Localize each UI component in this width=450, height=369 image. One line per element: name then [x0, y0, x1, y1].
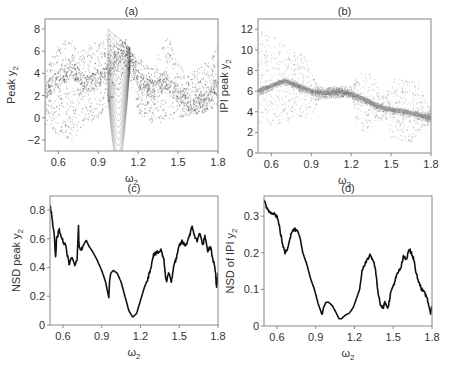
- axes-frame: [45, 19, 218, 151]
- x-tick-label: 0.6: [55, 330, 70, 342]
- x-tick-label: 1.8: [423, 158, 438, 170]
- x-tick-label: 0.9: [304, 158, 319, 170]
- y-tick-label: 2: [34, 90, 40, 102]
- y-tick-label: 0: [253, 320, 259, 332]
- y-tick-label: 6: [34, 45, 40, 57]
- x-tick-label: 0.9: [94, 330, 109, 342]
- x-tick-label: 1.5: [172, 330, 187, 342]
- panel-b-ipi-peak-y2: 0.60.91.21.51.8024681012(b)ω2IPI peak y2: [218, 5, 439, 189]
- y-tick-label: 2: [247, 126, 253, 138]
- y-tick-label: 4: [247, 106, 253, 118]
- y-tick-label: 0.2: [30, 290, 45, 302]
- y-axis-label: NSD of IPI y2: [224, 228, 239, 294]
- y-tick-label: 0.8: [30, 204, 45, 216]
- y-tick-label: 0: [34, 112, 40, 124]
- plot-area: [264, 200, 432, 319]
- x-tick-label: 1.5: [386, 331, 401, 343]
- y-axis-label: NSD peak y2: [10, 228, 25, 292]
- x-tick-label: 1.8: [210, 156, 225, 168]
- x-tick-label: 1.2: [133, 330, 148, 342]
- x-tick-label: 1.2: [344, 158, 359, 170]
- plot-area: [45, 29, 219, 165]
- panel-title: (b): [338, 5, 351, 17]
- axes-frame: [50, 196, 218, 325]
- y-tick-label: 0: [39, 319, 45, 331]
- y-tick-label: 12: [241, 23, 253, 35]
- y-tick-label: 8: [34, 23, 40, 35]
- panel-title: (a): [125, 5, 138, 17]
- axes-frame: [264, 196, 432, 326]
- y-tick-label: 0: [247, 147, 253, 159]
- x-tick-label: 1.8: [424, 331, 439, 343]
- panel-d-nsd-ipi-y2: 0.60.91.21.51.800.10.20.3(d)ω2NSD of IPI…: [224, 182, 440, 362]
- x-axis-label: ω2: [127, 346, 141, 361]
- panel-title: (c): [128, 182, 141, 194]
- data-line: [264, 200, 432, 319]
- y-tick-label: −2: [27, 134, 40, 146]
- y-tick-label: 4: [34, 67, 40, 79]
- x-tick-label: 0.9: [308, 331, 323, 343]
- y-tick-label: 0.2: [244, 247, 259, 259]
- x-tick-label: 1.8: [210, 330, 225, 342]
- panel-title: (d): [341, 182, 354, 194]
- x-tick-label: 1.2: [347, 331, 362, 343]
- figure-canvas: 0.60.91.21.51.8−202468(a)ω2Peak y2 0.60.…: [0, 0, 450, 369]
- y-tick-label: 0.6: [30, 233, 45, 245]
- x-tick-label: 0.9: [91, 156, 106, 168]
- x-tick-label: 1.2: [131, 156, 146, 168]
- panel-c-nsd-peak-y2: 0.60.91.21.51.800.20.40.60.8(c)ω2NSD pea…: [10, 182, 226, 361]
- y-tick-label: 0.1: [244, 283, 259, 295]
- x-tick-label: 0.6: [51, 156, 66, 168]
- y-axis-label: Peak y2: [5, 65, 20, 104]
- y-tick-label: 8: [247, 65, 253, 77]
- y-tick-label: 0.3: [244, 210, 259, 222]
- x-axis-label: ω2: [341, 347, 355, 362]
- y-axis-label: IPI peak y2: [218, 59, 233, 113]
- data-line: [50, 206, 218, 317]
- plot-area: [50, 206, 218, 317]
- axes-frame: [258, 19, 431, 153]
- panel-a-peak-y2: 0.60.91.21.51.8−202468(a)ω2Peak y2: [5, 5, 226, 187]
- plot-area: [258, 31, 432, 142]
- y-tick-label: 10: [241, 44, 253, 56]
- x-tick-label: 1.5: [383, 158, 398, 170]
- y-tick-label: 6: [247, 85, 253, 97]
- x-tick-label: 0.6: [264, 158, 279, 170]
- y-tick-label: 0.4: [30, 261, 45, 273]
- x-tick-label: 1.5: [170, 156, 185, 168]
- x-tick-label: 0.6: [269, 331, 284, 343]
